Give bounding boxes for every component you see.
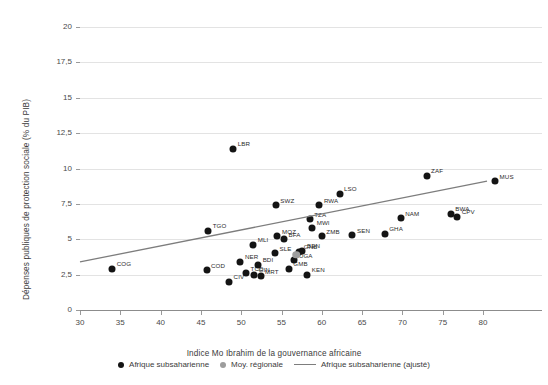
legend-label: Afrique subsaharienne (ajusté) (321, 360, 430, 369)
y-tick-label: 10 (32, 164, 72, 173)
data-point (272, 250, 279, 257)
data-point (306, 216, 313, 223)
x-tick-label: 45 (181, 318, 221, 327)
data-point (243, 270, 250, 277)
data-point (285, 265, 292, 272)
data-point (349, 232, 356, 239)
data-point (299, 247, 306, 254)
x-tick-label: 75 (423, 318, 463, 327)
data-point-label: SEN (357, 227, 370, 234)
data-point-label: COG (117, 260, 131, 267)
data-point (454, 213, 461, 220)
data-point-label: ZMB (326, 228, 339, 235)
gridline (80, 204, 542, 205)
data-point-label: MRT (265, 268, 279, 275)
legend-label: Afrique subsaharienne (129, 360, 209, 369)
y-tick-label: 0 (32, 305, 72, 314)
legend-item-moy-regionale: Moy. régionale (220, 360, 283, 369)
y-tick-mark (76, 204, 80, 205)
data-point-label: BEN (307, 242, 320, 249)
data-point (280, 236, 287, 243)
x-tick-label: 35 (100, 318, 140, 327)
data-point-label: GHA (389, 225, 403, 232)
x-tick-label: 50 (221, 318, 261, 327)
x-tick-mark (362, 311, 363, 315)
scatter-chart: Dépenses publiques de protection sociale… (0, 0, 548, 385)
data-point-label: MWI (317, 219, 330, 226)
x-tick-mark (402, 311, 403, 315)
trendline (0, 0, 548, 385)
data-point (272, 202, 279, 209)
data-point (205, 227, 212, 234)
data-point (381, 230, 388, 237)
data-point (316, 202, 323, 209)
x-tick-label: 40 (141, 318, 181, 327)
data-point-label: RWA (324, 197, 338, 204)
gridline (80, 27, 542, 28)
data-point-label: SWZ (280, 197, 294, 204)
data-point (304, 271, 311, 278)
legend-dot-gray-icon (220, 362, 226, 368)
y-axis-title: Dépenses publiques de protection sociale… (22, 99, 31, 300)
y-tick-label: 17,5 (32, 57, 72, 66)
x-tick-mark (161, 311, 162, 315)
y-tick-mark (76, 275, 80, 276)
x-tick-mark (282, 311, 283, 315)
data-point-label: TZA (314, 211, 326, 218)
data-point-label: NAM (405, 210, 419, 217)
data-point-label: KEN (312, 266, 325, 273)
data-point-label: SLE (280, 245, 292, 252)
gridline (80, 239, 542, 240)
x-tick-mark (443, 311, 444, 315)
gridline (80, 62, 542, 63)
gridline (80, 133, 542, 134)
y-tick-mark (76, 133, 80, 134)
data-point-label: CPV (462, 208, 475, 215)
data-point (309, 224, 316, 231)
data-point (230, 145, 237, 152)
data-point (423, 172, 430, 179)
data-point-label: LSO (344, 185, 357, 192)
legend-label: Moy. régionale (231, 360, 283, 369)
y-tick-mark (76, 62, 80, 63)
data-point-label: LBR (238, 140, 250, 147)
data-point (250, 241, 257, 248)
x-tick-mark (120, 311, 121, 315)
gridline (80, 169, 542, 170)
x-tick-label: 55 (262, 318, 302, 327)
data-point-label: ZAF (431, 167, 443, 174)
gridline (80, 275, 542, 276)
data-point-label: COD (211, 262, 225, 269)
legend-dot-icon (118, 362, 124, 368)
data-point (318, 233, 325, 240)
data-point (203, 267, 210, 274)
data-point (257, 273, 264, 280)
x-tick-label: 65 (342, 318, 382, 327)
x-tick-mark (322, 311, 323, 315)
y-tick-mark (76, 27, 80, 28)
y-tick-mark (76, 169, 80, 170)
y-tick-label: 7,5 (32, 199, 72, 208)
data-point-label: BFA (288, 231, 300, 238)
data-point (255, 261, 262, 268)
data-point-label: BDI (263, 256, 274, 263)
gridline (80, 98, 542, 99)
x-tick-mark (80, 311, 81, 315)
y-tick-mark (76, 239, 80, 240)
data-point (336, 190, 343, 197)
x-tick-label: 70 (382, 318, 422, 327)
x-tick-label: 80 (463, 318, 503, 327)
data-point-label: MUS (500, 173, 514, 180)
chart-legend: Afrique subsaharienne Moy. régionale Afr… (0, 360, 548, 369)
x-axis-title: Indice Mo Ibrahim de la gouvernance afri… (0, 349, 548, 358)
y-tick-label: 15 (32, 93, 72, 102)
data-point-label: NER (245, 253, 258, 260)
data-point-regional-average (292, 251, 300, 259)
data-point (492, 178, 499, 185)
data-point (226, 278, 233, 285)
y-tick-label: 20 (32, 22, 72, 31)
data-point (237, 258, 244, 265)
x-tick-mark (483, 311, 484, 315)
y-tick-mark (76, 98, 80, 99)
data-point (109, 265, 116, 272)
